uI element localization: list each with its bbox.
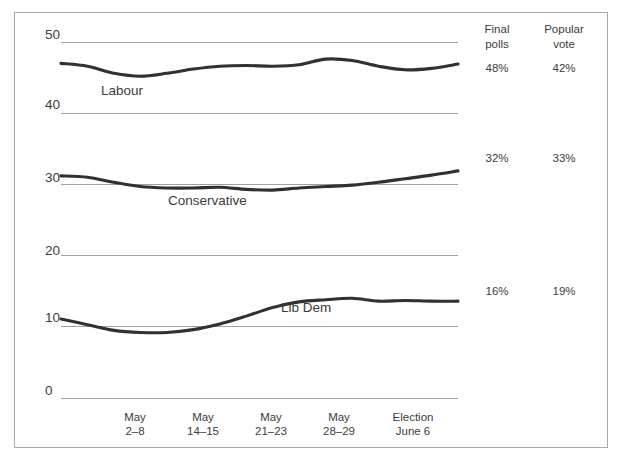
column-header-final-polls-line1: Final — [469, 22, 525, 37]
x-tick-may-28-29-line1: May — [299, 410, 379, 424]
y-tick-30: 30 — [45, 170, 60, 185]
x-tick-election-june-6-line2: June 6 — [373, 424, 453, 438]
x-tick-may-28-29-line2: 28–29 — [299, 424, 379, 438]
chart-frame-border — [14, 12, 608, 448]
column-header-final-polls: Final polls — [469, 22, 525, 51]
value-libdem-final-polls: 16% — [469, 285, 525, 297]
series-label-libdem: Lib Dem — [281, 300, 331, 315]
y-tick-20: 20 — [45, 243, 60, 258]
y-tick-10: 10 — [45, 310, 60, 325]
value-labour-final-polls: 48% — [469, 62, 525, 74]
value-conservative-final-polls: 32% — [469, 152, 525, 164]
y-tick-40: 40 — [45, 97, 60, 112]
column-header-popular-vote-line2: vote — [533, 37, 595, 52]
series-label-labour: Labour — [101, 83, 143, 98]
y-tick-50: 50 — [45, 27, 60, 42]
value-libdem-popular-vote: 19% — [533, 285, 595, 297]
x-tick-election-june-6-line1: Election — [373, 410, 453, 424]
x-tick-election-june-6: Election June 6 — [373, 410, 453, 438]
x-tick-may-28-29: May 28–29 — [299, 410, 379, 438]
series-label-conservative: Conservative — [168, 193, 247, 208]
column-header-popular-vote-line1: Popular — [533, 22, 595, 37]
value-conservative-popular-vote: 33% — [533, 152, 595, 164]
value-labour-popular-vote: 42% — [533, 62, 595, 74]
poll-tracking-chart-figure: 50 40 30 20 10 0 May 2–8 May 14–15 May 2… — [0, 0, 624, 468]
column-header-popular-vote: Popular vote — [533, 22, 595, 51]
y-tick-0: 0 — [45, 383, 53, 398]
column-header-final-polls-line2: polls — [469, 37, 525, 52]
